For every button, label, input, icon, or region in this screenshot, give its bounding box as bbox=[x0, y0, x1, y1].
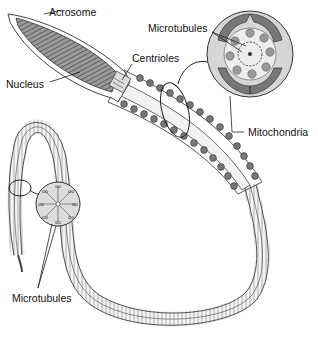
svg-text:oo: oo bbox=[68, 215, 74, 221]
svg-text:oo: oo bbox=[38, 202, 44, 208]
midpiece-cross-section bbox=[207, 11, 293, 97]
svg-text:oo: oo bbox=[68, 189, 74, 195]
sperm-diagram: oooooo oooooo oooo Acrosome Nucleus Cent… bbox=[0, 0, 318, 340]
svg-text:oo: oo bbox=[42, 189, 48, 195]
svg-text:oo: oo bbox=[55, 220, 61, 226]
label-mitochondria: Mitochondria bbox=[248, 126, 308, 138]
label-acrosome: Acrosome bbox=[49, 6, 96, 18]
svg-text:oo: oo bbox=[42, 215, 48, 221]
label-nucleus: Nucleus bbox=[6, 78, 44, 90]
label-centrioles: Centrioles bbox=[132, 52, 179, 64]
svg-text:oo: oo bbox=[72, 202, 78, 208]
label-microtubules-bottom: Microtubules bbox=[12, 292, 72, 304]
svg-text:oo: oo bbox=[55, 184, 61, 190]
label-microtubules-top: Microtubules bbox=[148, 22, 208, 34]
